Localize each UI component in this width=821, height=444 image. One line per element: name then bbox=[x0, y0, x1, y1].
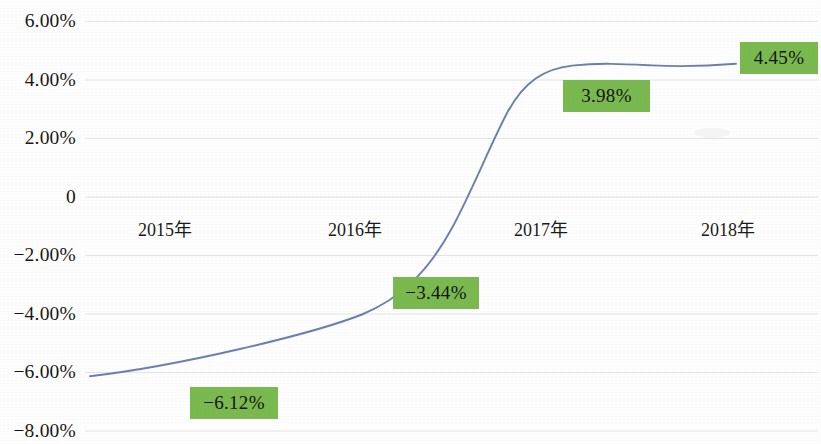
ytick-label-neg8: −8.00% bbox=[0, 420, 76, 442]
ytick-label-4: 4.00% bbox=[0, 69, 76, 91]
ytick-label-6: 6.00% bbox=[0, 10, 76, 32]
data-label-2018: 4.45% bbox=[740, 42, 818, 74]
data-label-2017: 3.98% bbox=[563, 80, 650, 112]
scan-artifact bbox=[694, 128, 730, 138]
ytick-label-neg4: −4.00% bbox=[0, 303, 76, 325]
ytick-label-2: 2.00% bbox=[0, 127, 76, 149]
xtick-label-2016: 2016年 bbox=[300, 215, 410, 241]
xtick-label-2015: 2015年 bbox=[110, 215, 220, 241]
ytick-label-neg6: −6.00% bbox=[0, 361, 76, 383]
ytick-label-neg2: −2.00% bbox=[0, 244, 76, 266]
data-label-2015: −6.12% bbox=[190, 387, 278, 419]
xtick-label-2018: 2018年 bbox=[673, 215, 783, 241]
line-chart: 6.00% 4.00% 2.00% 0 −2.00% −4.00% −6.00%… bbox=[0, 0, 821, 444]
ytick-label-0: 0 bbox=[0, 186, 76, 208]
xtick-label-2017: 2017年 bbox=[486, 215, 596, 241]
data-label-2016: −3.44% bbox=[393, 277, 479, 309]
